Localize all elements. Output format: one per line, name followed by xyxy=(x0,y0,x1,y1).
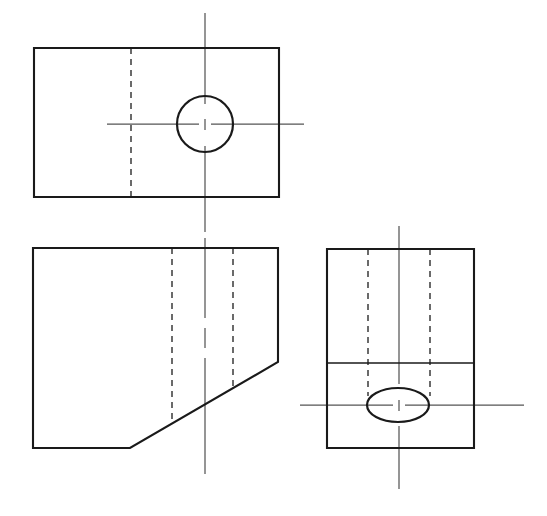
side-view xyxy=(300,226,524,489)
side-view-outline xyxy=(327,249,474,448)
top-view-outline xyxy=(34,48,279,197)
front-view-outline xyxy=(33,248,278,448)
top-view xyxy=(34,13,304,232)
drawing-canvas xyxy=(0,0,547,516)
front-view xyxy=(33,238,278,474)
technical-drawing-sheet xyxy=(0,0,547,516)
